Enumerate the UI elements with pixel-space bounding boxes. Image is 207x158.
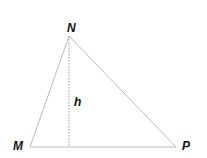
edge-np bbox=[69, 36, 176, 147]
vertex-label-m: M bbox=[13, 139, 24, 153]
altitude-label-h: h bbox=[74, 95, 81, 109]
vertex-label-p: P bbox=[182, 139, 191, 153]
vertex-label-n: N bbox=[67, 21, 76, 35]
edge-mn bbox=[30, 36, 69, 147]
triangle-diagram: N M P h bbox=[0, 0, 207, 158]
